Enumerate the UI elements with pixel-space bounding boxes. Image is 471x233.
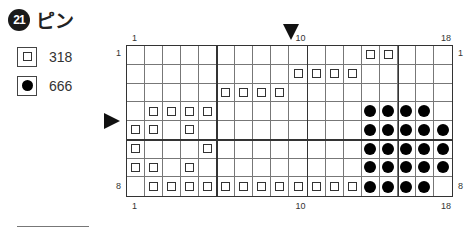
open-square-icon <box>294 182 303 191</box>
grid-cell <box>235 84 253 103</box>
column-number-top: 10 <box>296 33 306 43</box>
filled-circle-icon <box>418 124 430 136</box>
grid-cell <box>434 46 452 65</box>
grid-cell <box>289 121 307 140</box>
grid-cell <box>181 102 199 121</box>
grid-cell <box>308 84 326 103</box>
chart-title-text: ピン <box>36 6 74 33</box>
open-square-icon <box>131 163 140 172</box>
grid-cell <box>416 46 434 65</box>
grid-cell <box>344 140 362 159</box>
grid-cell <box>199 159 217 178</box>
grid-cell <box>434 140 452 159</box>
grid-cell <box>398 102 416 121</box>
open-square-icon <box>185 182 194 191</box>
grid-cell <box>416 140 434 159</box>
grid-cell <box>235 102 253 121</box>
filled-circle-icon <box>437 143 449 155</box>
grid-cell <box>253 102 271 121</box>
grid-cell <box>344 121 362 140</box>
filled-circle-icon <box>382 124 394 136</box>
grid-cell <box>217 84 235 103</box>
grid-cell <box>326 121 344 140</box>
grid-cell <box>253 84 271 103</box>
grid-cell <box>163 121 181 140</box>
grid-cell <box>145 84 163 103</box>
grid-cell <box>434 121 452 140</box>
grid-cell <box>398 140 416 159</box>
grid-cell <box>362 65 380 84</box>
grid-cell <box>380 102 398 121</box>
grid-cell <box>308 46 326 65</box>
grid-cell <box>416 65 434 84</box>
grid-cell <box>326 46 344 65</box>
grid-cell <box>145 177 163 196</box>
open-square-icon <box>167 182 176 191</box>
open-square-icon <box>312 69 321 78</box>
grid-cell <box>235 140 253 159</box>
grid-cell <box>344 84 362 103</box>
grid-cell <box>398 159 416 178</box>
open-square-icon <box>275 88 284 97</box>
open-square-icon <box>239 182 248 191</box>
filled-circle-icon <box>382 143 394 155</box>
grid-cell <box>416 159 434 178</box>
open-square-icon <box>185 163 194 172</box>
grid-cell <box>127 46 145 65</box>
grid-cell <box>326 159 344 178</box>
open-square-icon <box>17 47 37 67</box>
major-grid-line <box>126 139 453 141</box>
grid-cell <box>326 102 344 121</box>
grid-cell <box>326 84 344 103</box>
grid-cell <box>308 159 326 178</box>
filled-circle-icon <box>364 161 376 173</box>
grid-cell <box>434 159 452 178</box>
grid-cell <box>181 46 199 65</box>
open-square-icon <box>221 88 230 97</box>
filled-circle-icon <box>382 105 394 117</box>
grid-cell <box>253 159 271 178</box>
grid-cell <box>199 177 217 196</box>
grid-cell <box>308 121 326 140</box>
open-square-icon <box>384 50 393 59</box>
grid-cell <box>398 46 416 65</box>
grid-cell <box>217 102 235 121</box>
grid-cell <box>163 159 181 178</box>
grid-cell <box>289 102 307 121</box>
grid-cell <box>326 177 344 196</box>
filled-circle-icon <box>382 161 394 173</box>
grid-cell <box>235 46 253 65</box>
grid-cell <box>127 159 145 178</box>
grid-cell <box>289 140 307 159</box>
grid-cell <box>380 159 398 178</box>
column-number-bottom: 10 <box>296 201 306 211</box>
open-square-icon <box>275 182 284 191</box>
grid-cell <box>199 140 217 159</box>
grid-cell <box>217 65 235 84</box>
grid-cell <box>326 65 344 84</box>
grid-cell <box>416 84 434 103</box>
column-number-top: 1 <box>132 33 137 43</box>
open-square-icon <box>257 182 266 191</box>
filled-circle-icon <box>17 76 37 96</box>
column-number-top: 18 <box>441 33 451 43</box>
grid-cell <box>289 65 307 84</box>
grid-cell <box>199 121 217 140</box>
grid-cell <box>127 84 145 103</box>
grid-cell <box>163 177 181 196</box>
filled-circle-icon <box>437 161 449 173</box>
grid-cell <box>253 65 271 84</box>
column-number-bottom: 1 <box>132 201 137 211</box>
filled-circle-icon <box>400 105 412 117</box>
grid-cell <box>271 140 289 159</box>
major-grid-line <box>307 45 309 197</box>
grid-cell <box>434 65 452 84</box>
open-square-icon <box>167 107 176 116</box>
grid-cell <box>145 65 163 84</box>
grid-cell <box>308 140 326 159</box>
grid-cell <box>416 121 434 140</box>
grid-cell <box>145 102 163 121</box>
grid-cell <box>235 177 253 196</box>
grid-cell <box>127 65 145 84</box>
row-number-left: 8 <box>116 181 121 191</box>
